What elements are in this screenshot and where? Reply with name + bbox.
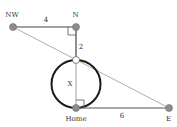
label-seg-p-home: X [68,80,73,88]
point-n [73,24,80,31]
segment-nw-e [13,27,169,108]
point-e [166,105,173,112]
label-seg-n-p: 2 [79,43,83,51]
point-home [73,105,80,112]
label-home: Home [65,115,86,123]
label-seg-home-e: 6 [120,112,125,120]
label-n: N [72,11,78,19]
label-seg-nw-n: 4 [44,16,49,24]
label-nw: NW [5,11,19,19]
geometry-diagram: NW N 4 2 X Home 6 E [0,0,177,127]
point-tangent [73,57,80,64]
point-nw [10,24,17,31]
label-e: E [166,115,171,123]
